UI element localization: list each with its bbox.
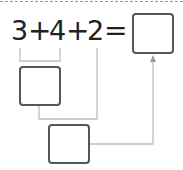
- connector-step-to-answer: [89, 60, 153, 144]
- bracket-3-4: [20, 48, 60, 61]
- arrow-up-icon: [150, 55, 156, 62]
- answer-box[interactable]: [132, 13, 174, 54]
- second-step-box[interactable]: [48, 124, 90, 164]
- partial-sum-box[interactable]: [19, 66, 61, 106]
